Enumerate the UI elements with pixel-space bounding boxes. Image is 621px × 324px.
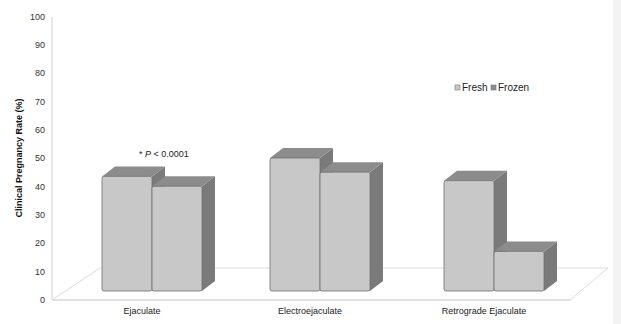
y-tick: 30 (35, 210, 45, 220)
legend: Fresh Frozen (455, 82, 529, 93)
significance-annotation: * P < 0.0001 (139, 149, 189, 159)
bar-side (370, 162, 383, 291)
bar-frozen (494, 241, 557, 291)
legend-swatch-fresh (455, 85, 460, 90)
y-axis-label: Clinical Pregnancy Rate (%) (14, 98, 24, 217)
y-tick: 80 (35, 68, 45, 78)
y-tick: 0 (40, 295, 45, 305)
bars-group (102, 148, 557, 291)
y-tick: 70 (35, 97, 45, 107)
y-tick: 10 (35, 267, 45, 277)
x-category-label: Retrograde Ejaculate (442, 306, 527, 316)
annotation-value: < 0.0001 (151, 149, 189, 159)
y-tick: 20 (35, 238, 45, 248)
page-edge (613, 0, 621, 324)
y-tick: 90 (35, 40, 45, 50)
bar-chart: 0 10 20 30 40 50 60 70 80 90 100 Clinica… (0, 0, 621, 324)
legend-label-frozen: Frozen (498, 82, 529, 93)
bar-front (494, 251, 544, 291)
bar-side (202, 176, 215, 291)
bar-frozen (152, 176, 215, 291)
bar-front (152, 186, 202, 291)
legend-swatch-frozen (491, 85, 496, 90)
y-tick: 60 (35, 125, 45, 135)
y-tick: 40 (35, 182, 45, 192)
x-category-label: Ejaculate (123, 306, 160, 316)
bar-frozen (320, 162, 383, 291)
x-category-label: Electroejaculate (278, 306, 342, 316)
bar-front (102, 176, 152, 291)
bar-front (444, 181, 494, 291)
y-axis-ticks: 0 10 20 30 40 50 60 70 80 90 100 (30, 12, 45, 305)
legend-label-fresh: Fresh (462, 82, 488, 93)
bar-front (320, 172, 370, 291)
y-tick: 100 (30, 12, 45, 22)
bar-front (270, 158, 320, 291)
y-tick: 50 (35, 153, 45, 163)
